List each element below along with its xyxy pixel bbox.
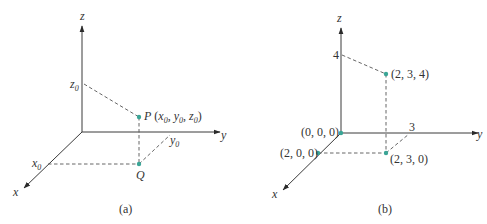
panel-b: z y x 4 3 (0, 0, 0) (2, 0, 0) (2, 3, 0) … bbox=[271, 11, 483, 216]
z0-label: z0 bbox=[69, 77, 79, 93]
point-2-3-4 bbox=[384, 72, 388, 76]
z-tick-4: 4 bbox=[333, 48, 339, 62]
panel-a-caption: (a) bbox=[119, 202, 132, 216]
point-q-label: Q bbox=[136, 168, 145, 182]
y-axis-label: y bbox=[220, 128, 227, 142]
panel-a: z y x z0 x0 y0 P (x0, y0, z0) Q (a) bbox=[12, 9, 227, 216]
z4-projection-line bbox=[342, 55, 386, 74]
point-p-label: P (x0, y0, z0) bbox=[143, 109, 202, 125]
y0-projection-line bbox=[139, 135, 170, 164]
y0-label: y0 bbox=[169, 133, 179, 149]
point-q bbox=[137, 162, 141, 166]
x-axis-label: x bbox=[271, 187, 278, 201]
z-axis-label: z bbox=[336, 11, 342, 25]
x-axis bbox=[283, 133, 341, 190]
point-2-3-0 bbox=[384, 151, 388, 155]
y-axis-label: y bbox=[476, 127, 483, 141]
point-origin-label: (0, 0, 0) bbox=[301, 125, 339, 139]
x-axis-label: x bbox=[12, 185, 19, 199]
point-2-3-4-label: (2, 3, 4) bbox=[391, 67, 429, 81]
point-2-0-0-label: (2, 0, 0) bbox=[280, 146, 318, 160]
point-origin bbox=[339, 131, 343, 135]
panel-b-caption: (b) bbox=[378, 202, 392, 216]
point-2-3-0-label: (2, 3, 0) bbox=[390, 152, 428, 166]
y-tick-3: 3 bbox=[409, 120, 415, 134]
z0-projection-line bbox=[84, 84, 139, 117]
z-axis-label: z bbox=[79, 9, 85, 23]
x0-label: x0 bbox=[31, 156, 41, 172]
figure-canvas: z y x z0 x0 y0 P (x0, y0, z0) Q (a) z y … bbox=[0, 0, 487, 224]
y3-projection-line bbox=[386, 134, 409, 153]
point-p bbox=[137, 115, 141, 119]
